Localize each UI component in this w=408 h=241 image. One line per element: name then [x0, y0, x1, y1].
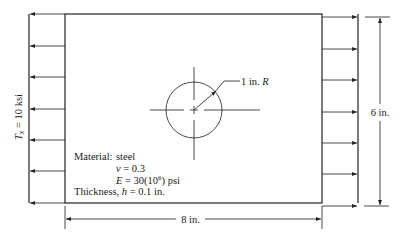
height-dimension: 6 in. — [364, 17, 390, 206]
traction-label: Tx = 10 ksi — [13, 94, 26, 140]
material-properties: Material:steel ν = 0.3 E = 30(106) psi T… — [74, 151, 180, 197]
width-label: 8 in. — [181, 214, 200, 225]
plate-diagram: 1 in. R Tx = 10 ksi Material:steel ν = 0… — [0, 0, 408, 241]
poisson-line: ν = 0.3 — [116, 163, 145, 174]
right-load-arrows — [322, 17, 357, 206]
radius-leader — [214, 81, 240, 93]
thickness-line: Thickness, h = 0.1 in. — [74, 186, 165, 197]
left-load-arrows — [30, 14, 65, 203]
material-line: Material:steel — [74, 151, 135, 162]
height-label: 6 in. — [371, 107, 390, 118]
hole-radius-label: 1 in. R — [241, 76, 269, 87]
radius-arrow-icon — [194, 91, 216, 110]
width-dimension: 8 in. — [65, 206, 322, 229]
plate-outline — [65, 14, 322, 203]
